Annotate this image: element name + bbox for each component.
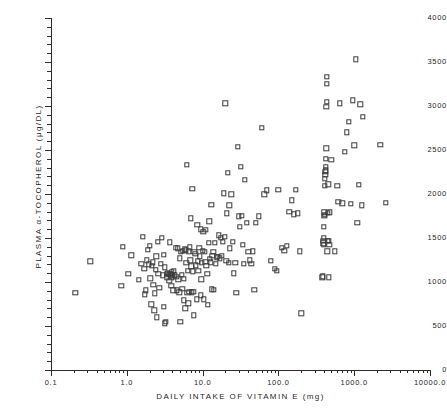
- data-point: [143, 288, 148, 293]
- data-point: [359, 203, 364, 208]
- data-point: [202, 249, 207, 254]
- x-tick-minor: [191, 370, 192, 373]
- data-point: [276, 187, 281, 192]
- data-point: [190, 289, 195, 294]
- x-tick-minor: [123, 370, 124, 373]
- data-point: [337, 101, 342, 106]
- data-point: [142, 292, 147, 297]
- data-point: [212, 240, 217, 245]
- data-point: [162, 321, 167, 326]
- x-tick-minor: [301, 370, 302, 373]
- data-point: [174, 274, 179, 279]
- x-tick-minor: [262, 370, 263, 373]
- data-point: [295, 211, 300, 216]
- data-point: [88, 259, 93, 264]
- x-tick-minor: [271, 370, 272, 373]
- data-point: [246, 249, 251, 254]
- data-point: [211, 287, 216, 292]
- data-point: [158, 261, 163, 266]
- x-tick-minor: [413, 370, 414, 373]
- data-point: [268, 258, 273, 263]
- data-point: [167, 278, 172, 283]
- x-axis-title: DAILY INTAKE OF VITAMIN E (mg): [51, 392, 430, 401]
- x-tick-minor: [400, 370, 401, 373]
- y-tick-minor: [47, 176, 51, 177]
- data-point: [322, 210, 327, 215]
- data-point: [200, 248, 205, 253]
- data-point: [320, 274, 325, 279]
- data-point: [126, 271, 131, 276]
- x-tick-minor: [315, 370, 316, 373]
- y-tick-label: 4000: [405, 13, 447, 22]
- data-point: [203, 227, 208, 232]
- data-point: [190, 186, 195, 191]
- data-point: [230, 239, 235, 244]
- data-point: [149, 302, 154, 307]
- y-tick-minor: [47, 361, 51, 362]
- data-point: [325, 210, 330, 215]
- data-point: [323, 156, 328, 161]
- x-tick-label: 10.0: [194, 378, 211, 387]
- y-axis-title: PLASMA α-TOCOPHEROL (μg/DL): [34, 72, 43, 302]
- data-point: [171, 288, 176, 293]
- data-point: [291, 212, 296, 217]
- data-point: [221, 190, 226, 195]
- data-point: [289, 197, 294, 202]
- data-point: [136, 277, 141, 282]
- x-tick-minor: [180, 370, 181, 373]
- data-point: [327, 242, 332, 247]
- data-point: [196, 245, 201, 250]
- y-tick-minor: [47, 168, 51, 169]
- data-point: [220, 239, 225, 244]
- data-point: [163, 319, 168, 324]
- data-point: [159, 235, 164, 240]
- data-point: [264, 188, 269, 193]
- data-point: [190, 269, 195, 274]
- data-point: [150, 259, 155, 264]
- data-point: [174, 288, 179, 293]
- data-point: [152, 291, 157, 296]
- x-tick-major: [203, 370, 204, 376]
- data-point: [249, 261, 254, 266]
- data-point: [188, 215, 193, 220]
- data-point: [324, 74, 329, 79]
- y-tick-minor: [47, 124, 51, 125]
- data-point: [164, 274, 169, 279]
- x-tick-minor: [256, 370, 257, 373]
- y-tick-minor: [47, 291, 51, 292]
- y-tick-minor: [47, 97, 51, 98]
- data-point: [188, 258, 193, 263]
- data-point: [73, 290, 78, 295]
- data-point: [259, 125, 264, 130]
- x-tick-major: [51, 370, 52, 376]
- y-tick-minor: [47, 317, 51, 318]
- data-point: [168, 273, 173, 278]
- data-point: [176, 277, 181, 282]
- x-tick-minor: [390, 370, 391, 373]
- x-tick-minor: [104, 370, 105, 373]
- data-point: [180, 248, 185, 253]
- data-point: [169, 275, 174, 280]
- x-tick-minor: [163, 370, 164, 373]
- data-point: [252, 287, 257, 292]
- x-tick-minor: [324, 370, 325, 373]
- data-point: [206, 240, 211, 245]
- data-point: [183, 248, 188, 253]
- data-point: [178, 249, 183, 254]
- y-tick-minor: [47, 141, 51, 142]
- data-point: [184, 162, 189, 167]
- data-point: [215, 254, 220, 259]
- x-tick-minor: [186, 370, 187, 373]
- data-point: [356, 182, 361, 187]
- data-point: [166, 272, 171, 277]
- y-tick-minor: [47, 220, 51, 221]
- y-axis-line: [51, 18, 52, 370]
- data-point: [140, 234, 145, 239]
- x-tick-minor: [427, 370, 428, 373]
- x-tick-minor: [267, 370, 268, 373]
- x-tick-minor: [195, 370, 196, 373]
- y-tick-minor: [47, 212, 51, 213]
- x-tick-label: 1000.0: [341, 378, 368, 387]
- x-tick-minor: [377, 370, 378, 373]
- data-point: [321, 238, 326, 243]
